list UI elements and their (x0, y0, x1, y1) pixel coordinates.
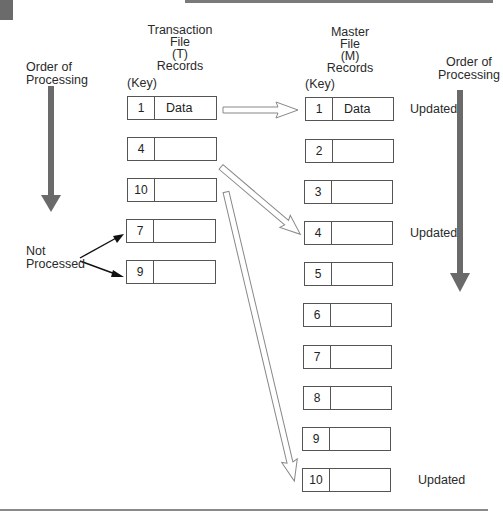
m-record-4: 4 (304, 221, 393, 245)
match-arrow-1-icon (223, 102, 298, 118)
transaction-file-header: Transaction File (T) Records (130, 24, 230, 72)
record-data (331, 346, 391, 368)
record-key: 4 (128, 138, 155, 160)
record-key: 10 (303, 469, 330, 491)
m-record-3: 3 (304, 180, 393, 204)
record-key: 10 (128, 179, 155, 201)
not-processed-line2: Processed (26, 258, 85, 271)
record-data (155, 138, 216, 160)
update-status: Updated (418, 474, 465, 487)
update-status: Updated (410, 103, 457, 116)
tx-record-10: 10 (127, 178, 217, 202)
right-order-arrow-icon (450, 90, 470, 292)
record-data (154, 261, 215, 283)
left-order-line2: Processing (26, 74, 88, 87)
record-data (333, 140, 393, 162)
record-data (332, 181, 392, 203)
m-record-5: 5 (304, 262, 393, 286)
tx-record-9: 9 (126, 260, 216, 284)
tx-record-1: 1 Data (127, 96, 217, 120)
tx-record-7: 7 (126, 219, 216, 243)
left-order-line1: Order of (26, 61, 88, 74)
record-data (332, 263, 392, 285)
record-key: 3 (305, 181, 332, 203)
m-record-9: 9 (302, 427, 391, 451)
m-record-7: 7 (303, 345, 392, 369)
record-data (330, 469, 390, 491)
record-key: 8 (304, 387, 331, 409)
record-data (330, 428, 390, 450)
right-order-line1: Order of (438, 56, 500, 69)
record-key: 9 (303, 428, 330, 450)
record-data (331, 304, 391, 326)
record-data (331, 387, 391, 409)
record-data (155, 179, 216, 201)
update-status: Updated (410, 227, 457, 240)
record-key: 1 (128, 97, 155, 119)
record-key: 2 (306, 140, 333, 162)
tx-record-4: 4 (127, 137, 217, 161)
m-record-8: 8 (303, 386, 392, 410)
not-processed-arrows-icon (80, 234, 124, 277)
record-key: 7 (127, 220, 154, 242)
right-order-label: Order of Processing (438, 56, 500, 81)
m-key-label: (Key) (305, 78, 335, 91)
m-record-10: 10 (302, 468, 391, 492)
record-data: Data (155, 97, 216, 119)
record-key: 7 (304, 346, 331, 368)
record-key: 9 (127, 261, 154, 283)
left-order-arrow-icon (41, 86, 61, 212)
m-record-6: 6 (303, 303, 392, 327)
record-key: 1 (306, 98, 333, 120)
record-data (332, 222, 392, 244)
not-processed-label: Not Processed (26, 245, 85, 270)
record-data (154, 220, 215, 242)
tx-key-label: (Key) (127, 77, 157, 90)
tx-header-line: Records (130, 60, 230, 72)
record-key: 5 (305, 263, 332, 285)
record-data: Data (333, 98, 393, 120)
m-record-1: 1Data (305, 97, 394, 121)
match-arrow-10-icon (218, 190, 302, 483)
master-file-header: Master File (M) Records (300, 26, 400, 74)
m-header-line: Records (300, 62, 400, 74)
m-record-2: 2 (305, 139, 394, 163)
right-order-line2: Processing (438, 69, 500, 82)
not-processed-line1: Not (26, 245, 85, 258)
record-key: 4 (305, 222, 332, 244)
left-order-label: Order of Processing (26, 61, 88, 86)
record-key: 6 (304, 304, 331, 326)
